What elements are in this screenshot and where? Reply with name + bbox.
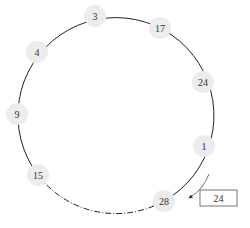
ring-dashed-arc	[38, 175, 164, 214]
node-label: 4	[35, 47, 40, 58]
key-box-label: 24	[214, 193, 224, 204]
node-3: 3	[84, 5, 106, 27]
node-9: 9	[6, 103, 28, 125]
node-label: 24	[198, 77, 208, 88]
ring	[18, 18, 214, 214]
node-label: 17	[155, 23, 165, 34]
hash-ring-diagram: 3 17 24 1 28 15 9 4 24	[0, 0, 250, 228]
node-label: 28	[159, 196, 169, 207]
node-label: 1	[202, 141, 207, 152]
key-box: 24	[200, 190, 237, 206]
node-17: 17	[149, 17, 171, 39]
node-label: 15	[33, 170, 43, 181]
node-1: 1	[193, 135, 215, 157]
node-label: 3	[93, 11, 98, 22]
node-24: 24	[192, 71, 214, 93]
node-label: 9	[15, 109, 20, 120]
node-15: 15	[27, 164, 49, 186]
node-4: 4	[26, 41, 48, 63]
node-28: 28	[153, 190, 175, 212]
